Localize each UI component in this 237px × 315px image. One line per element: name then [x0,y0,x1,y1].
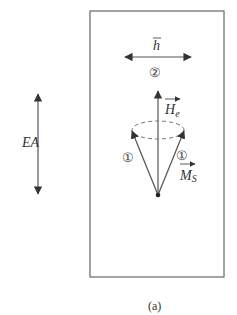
ms-label: MS [179,168,197,184]
easy-axis-label: EA [21,135,40,150]
he-label-sub: e [175,108,180,119]
diagram-canvas: EA h ② He ① ① MS (a) [0,0,237,315]
origin-dot [156,193,161,198]
ms-arrow-left [132,131,158,195]
he-label: He [164,102,180,119]
h-label: h [153,38,160,53]
marker-left: ① [122,150,134,165]
ms-arrow-right [158,131,184,195]
marker-h: ② [149,65,161,80]
figure-caption: (a) [148,299,161,313]
ms-label-sub: S [192,173,197,184]
marker-right: ① [176,148,188,163]
